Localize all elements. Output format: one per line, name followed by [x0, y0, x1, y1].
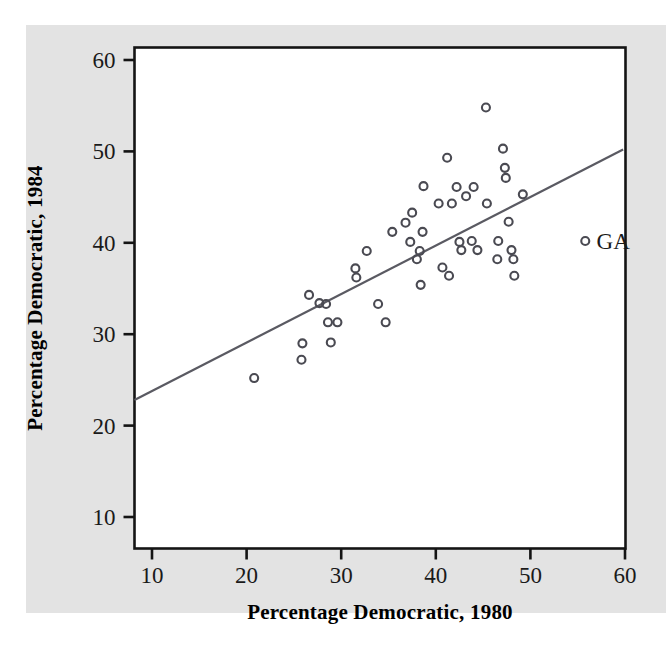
annotation-label: GA [597, 229, 631, 254]
y-tick-label: 60 [93, 48, 116, 73]
scatter-chart: 102030405060 102030405060 GA Percentage … [0, 0, 666, 646]
x-axis-title: Percentage Democratic, 1980 [247, 600, 513, 624]
figure-container: 102030405060 102030405060 GA Percentage … [0, 0, 666, 646]
x-tick-label: 50 [519, 563, 542, 588]
x-tick-label: 20 [235, 563, 258, 588]
plot-frame [135, 48, 626, 549]
x-tick-label: 30 [330, 563, 353, 588]
x-tick-label: 10 [141, 563, 164, 588]
y-axis-title: Percentage Democratic, 1984 [23, 165, 47, 431]
y-tick-label: 50 [93, 139, 116, 164]
y-tick-label: 20 [93, 414, 116, 439]
x-axis-ticks: 102030405060 [141, 549, 637, 588]
y-axis-ticks: 102030405060 [93, 48, 135, 530]
y-tick-label: 30 [93, 322, 116, 347]
y-tick-label: 10 [93, 505, 116, 530]
x-tick-label: 60 [614, 563, 637, 588]
plot-area [135, 48, 626, 549]
x-tick-label: 40 [424, 563, 447, 588]
y-tick-label: 40 [93, 231, 116, 256]
